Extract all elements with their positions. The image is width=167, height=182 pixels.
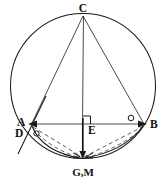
label-gm: G,M: [72, 166, 94, 178]
label-d: D: [15, 127, 23, 139]
label-b: B: [150, 118, 158, 130]
angle-mark-b-icon: [128, 115, 134, 121]
label-c: C: [79, 2, 87, 14]
right-angle-mark-e: [83, 116, 91, 124]
geometry-figure: C A D B E G,M: [0, 0, 167, 182]
segment-c-to-e: [83, 16, 84, 124]
label-e: E: [88, 124, 96, 136]
segment-c-b: [83, 16, 144, 124]
dashed-segment-a-gm: [33, 127, 82, 157]
segment-c-a: [32, 16, 84, 124]
